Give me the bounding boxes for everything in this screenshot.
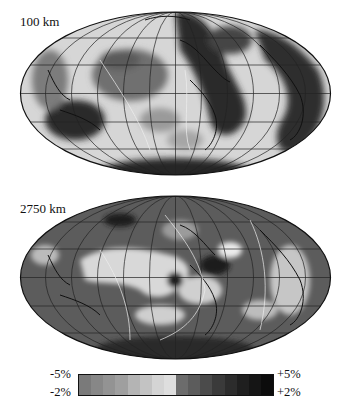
colorbar-segment	[237, 375, 249, 395]
colorbar-segment	[176, 375, 188, 395]
colorbar-label-bottom-right: +2%	[277, 385, 301, 400]
colorbar-segment	[152, 375, 164, 395]
colorbar-segment	[249, 375, 261, 395]
colorbar-label-top-left: -5%	[50, 367, 71, 382]
colorbar-segment	[200, 375, 212, 395]
colorbar-segment	[115, 375, 127, 395]
colorbar-segment	[164, 375, 176, 395]
map-2750km	[0, 185, 352, 365]
colorbar-segment	[103, 375, 115, 395]
colorbar-segment	[140, 375, 152, 395]
colorbar-segment	[212, 375, 224, 395]
colorbar-segment	[225, 375, 237, 395]
colorbar-segment	[261, 375, 273, 395]
colorbar-segment	[188, 375, 200, 395]
map-100km	[0, 0, 352, 185]
colorbar	[78, 374, 274, 396]
colorbar-label-bottom-left: -2%	[50, 385, 71, 400]
colorbar-segment	[128, 375, 140, 395]
colorbar-segment	[79, 375, 91, 395]
colorbar-segment	[91, 375, 103, 395]
colorbar-label-top-right: +5%	[277, 367, 301, 382]
